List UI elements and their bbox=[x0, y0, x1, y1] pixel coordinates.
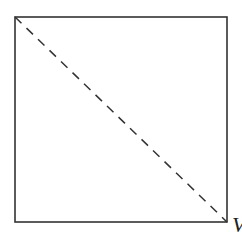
dashed-diagonal bbox=[15, 17, 227, 222]
corner-label: V bbox=[232, 214, 242, 236]
square-diagram bbox=[0, 0, 242, 237]
